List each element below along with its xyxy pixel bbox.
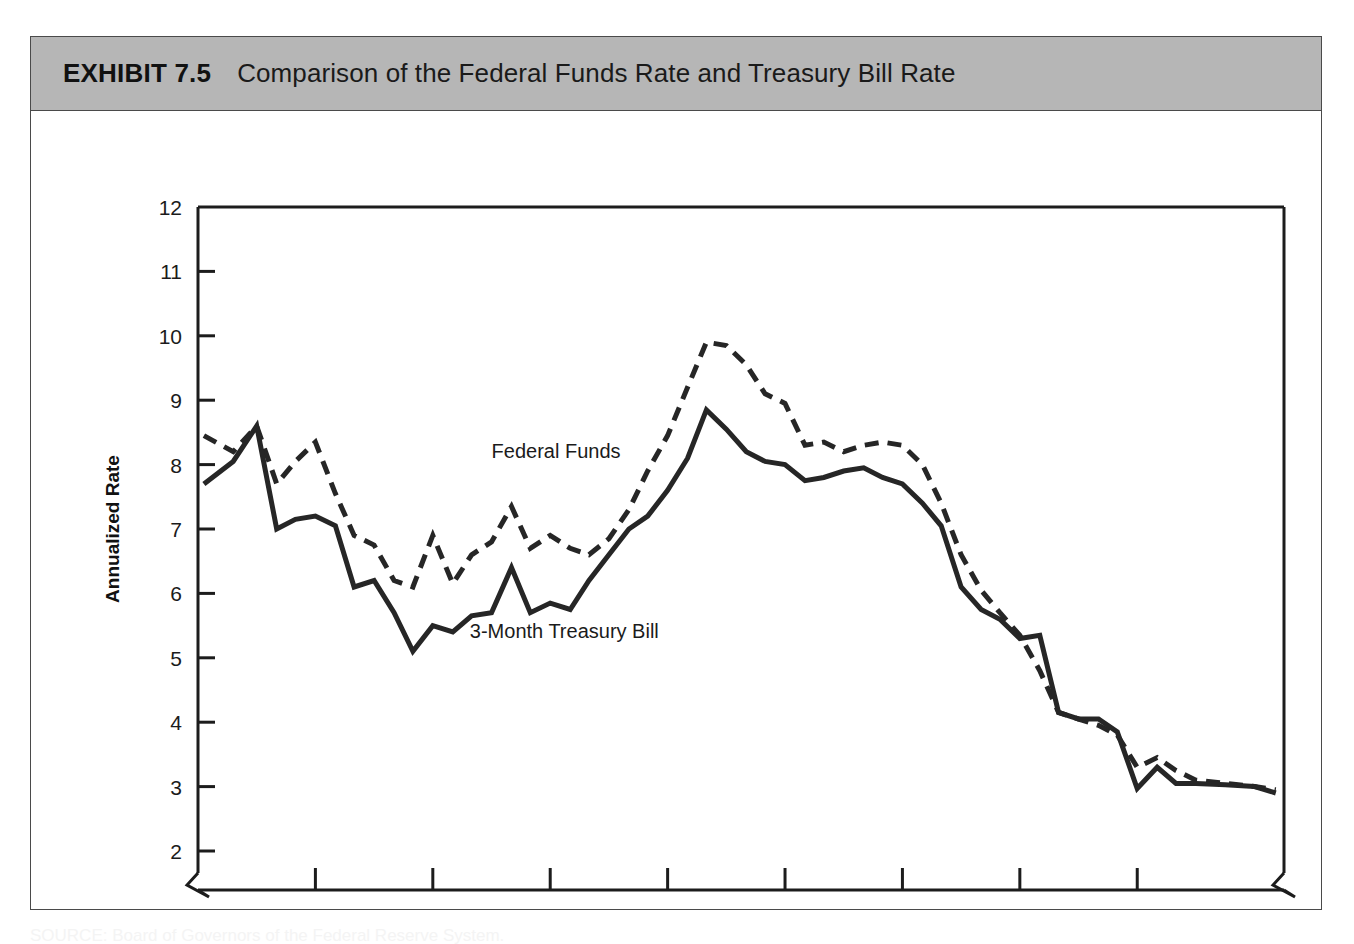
series-annotation: Federal Funds (492, 440, 621, 462)
plot-frame-group (187, 207, 1295, 897)
x-tick-label: 1990 (820, 905, 867, 910)
series-line-3-month-treasury-bill (204, 410, 1276, 793)
exhibit-title-band: EXHIBIT 7.5 Comparison of the Federal Fu… (31, 37, 1321, 111)
x-tick-label: 1989 (703, 905, 750, 910)
exhibit-title: Comparison of the Federal Funds Rate and… (237, 58, 955, 89)
x-tick-label: 1991 (938, 905, 985, 910)
series-annotation: 3-Month Treasury Bill (470, 620, 659, 642)
y-tick-label-group: 23456789101112 (159, 196, 183, 863)
y-tick-label: 4 (170, 711, 182, 734)
x-tick-label: 1992 (1055, 905, 1102, 910)
exhibit-frame: EXHIBIT 7.5 Comparison of the Federal Fu… (30, 36, 1322, 910)
x-tick-label: 1993 (1173, 905, 1220, 910)
y-tick-label: 9 (170, 389, 182, 412)
exhibit-number: EXHIBIT 7.5 (63, 58, 211, 89)
y-tick-label: 2 (170, 840, 182, 863)
annotation-group: Federal Funds3-Month Treasury Bill (470, 440, 659, 642)
series-group (204, 342, 1276, 793)
x-tick-label: 1986 (351, 905, 398, 910)
source-caption: SOURCE: Board of Governors of the Federa… (30, 926, 1320, 944)
y-tick-label: 7 (170, 518, 182, 541)
chart-area: 23456789101112 1985198619871988198919901… (31, 111, 1321, 910)
y-tick-label: 3 (170, 776, 182, 799)
series-line-federal-funds (204, 342, 1276, 790)
line-chart: 23456789101112 1985198619871988198919901… (31, 111, 1321, 910)
y-tick-label: 8 (170, 454, 182, 477)
x-tick-label-group: 198519861987198819891990199119921993 (233, 905, 1219, 910)
y-tick-label: 5 (170, 647, 182, 670)
y-axis-title-group: Annualized Rate (102, 455, 123, 603)
y-axis-title: Annualized Rate (102, 455, 123, 603)
y-tick-label: 12 (159, 196, 182, 219)
x-tick-label: 1985 (233, 905, 280, 910)
y-tick-group (198, 271, 215, 851)
x-tick-label: 1987 (468, 905, 515, 910)
y-tick-label: 10 (159, 325, 182, 348)
x-tick-group (315, 868, 1137, 890)
y-tick-label: 6 (170, 582, 182, 605)
y-tick-label: 11 (160, 260, 182, 283)
x-tick-label: 1988 (586, 905, 633, 910)
